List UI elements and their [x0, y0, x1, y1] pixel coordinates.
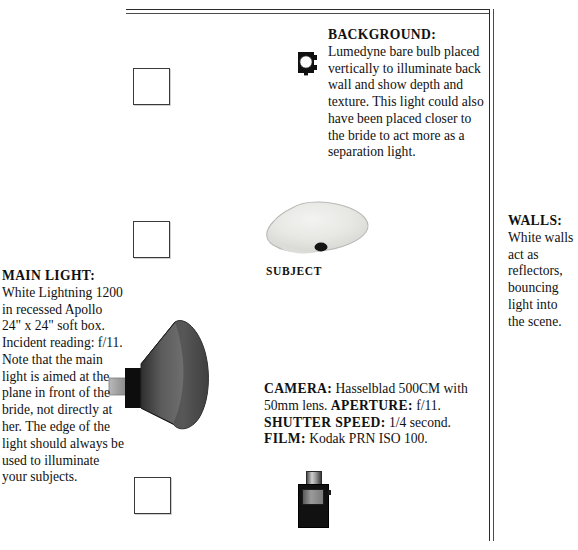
camera-lens-icon	[306, 471, 322, 485]
side-wall	[489, 9, 494, 541]
caption-background: BACKGROUND: Lumedyne bare bulb placed ve…	[328, 27, 488, 161]
lighting-diagram-canvas: SUBJECT	[0, 0, 578, 550]
caption-background-label: BACKGROUND:	[328, 27, 436, 42]
caption-film-text: Kodak PRN ISO 100.	[306, 431, 428, 446]
back-wall	[126, 9, 494, 14]
caption-camera-label: CAMERA:	[264, 381, 332, 396]
caption-walls-label: WALLS:	[508, 213, 574, 230]
camera-icon	[298, 471, 332, 529]
reflector-panel-icon	[134, 477, 171, 514]
caption-walls-text: White walls act as reflectors, bouncing …	[508, 230, 573, 329]
reflector-panel-icon	[133, 68, 170, 105]
bare-bulb-light-icon	[297, 50, 319, 76]
reflector-panel-icon	[133, 221, 170, 258]
caption-camera-settings: CAMERA: Hasselblad 500CM with 50mm lens.…	[264, 381, 492, 448]
caption-film-label: FILM:	[264, 431, 306, 446]
caption-walls: WALLS:White walls act as reflectors, bou…	[508, 213, 574, 330]
caption-aperture-label: APERTURE:	[331, 398, 413, 413]
camera-knob-icon	[328, 490, 331, 495]
caption-background-text: Lumedyne bare bulb placed vertically to …	[328, 44, 484, 160]
caption-aperture-text: f/11.	[413, 398, 441, 413]
caption-shutter-label: SHUTTER SPEED:	[264, 415, 386, 430]
camera-screen-icon	[302, 489, 324, 505]
caption-main-light-label: MAIN LIGHT:	[2, 268, 95, 283]
subject-label: SUBJECT	[266, 265, 322, 277]
caption-shutter-text: 1/4 second.	[386, 415, 451, 430]
caption-main-light-text: White Lightning 1200 in recessed Apollo …	[2, 285, 124, 485]
subject-blob-icon	[262, 199, 374, 261]
caption-main-light: MAIN LIGHT: White Lightning 1200 in rece…	[2, 268, 124, 486]
